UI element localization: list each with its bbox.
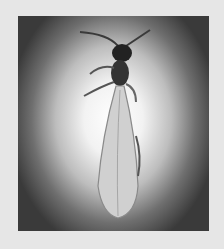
termite-illustration [18,16,209,231]
insect-photo [18,16,209,231]
left-antenna [80,32,118,46]
head [112,44,132,62]
wings [98,86,138,218]
leg [84,82,114,96]
leg [90,67,114,74]
right-antenna [126,30,150,46]
